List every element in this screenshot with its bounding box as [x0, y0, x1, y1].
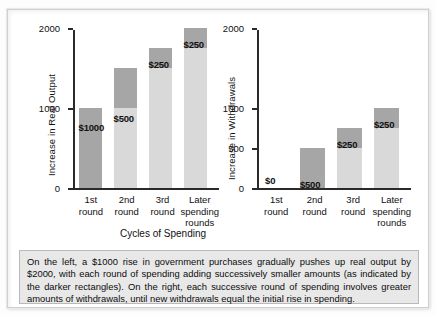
x-tick-left-4: Later spending rounds: [180, 194, 219, 229]
x-tick-left-2: 2nd round: [109, 194, 145, 229]
y-axis-title-right: Increase in Withdrawals: [226, 50, 237, 180]
page-frame: Increase in Real Output 0 1000 2000: [7, 9, 429, 308]
bar-right-3-value-label: $250: [337, 139, 357, 150]
bar-slot-right-2: $500: [294, 30, 331, 188]
bar-left-4-light-segment: [184, 48, 208, 188]
bar-right-1-value-label: $0: [265, 175, 276, 186]
bar-left-3-light-segment: [149, 68, 173, 188]
bar-right-3rd-round[interactable]: $250: [337, 128, 362, 188]
x-tick-right-4: Later spending rounds: [372, 194, 411, 229]
y-tick-label-right-1000: 1000: [223, 103, 244, 114]
x-tick-right-1: 1st round: [257, 194, 295, 229]
x-axis-line-left: [73, 188, 219, 190]
y-tick-left-0: 0: [68, 188, 73, 190]
y-tick-label-left-0: 0: [55, 183, 60, 194]
bar-slot-right-3: $250: [331, 30, 368, 188]
bar-right-3-dark-segment: $250: [337, 128, 362, 148]
bar-right-4-value-label: $250: [374, 119, 394, 130]
caption-text: On the left, a $1000 rise in government …: [27, 256, 411, 306]
bar-left-1-dark-segment: $1000: [79, 108, 103, 188]
bar-slot-left-2: $500: [108, 30, 143, 188]
bar-slot-right-4: $250: [368, 30, 405, 188]
bar-right-2-dark-segment: $500: [300, 148, 325, 188]
bar-right-later-rounds[interactable]: $250: [374, 108, 399, 188]
bar-right-2nd-round[interactable]: $500: [300, 148, 325, 188]
plot-area-left: 0 1000 2000 $1000: [73, 30, 213, 190]
bar-left-2-dark-segment: $500: [114, 68, 138, 108]
x-axis-title: Cycles of Spending: [68, 228, 258, 239]
x-tick-right-3: 3rd round: [334, 194, 372, 229]
bar-left-1st-round[interactable]: $1000: [79, 108, 103, 188]
bar-left-4-value-label: $250: [184, 39, 204, 50]
bar-slot-left-1: $1000: [73, 30, 108, 188]
y-tick-label-right-2000: 2000: [223, 23, 244, 34]
bar-left-2-value-label: $500: [114, 113, 134, 124]
caption-box: On the left, a $1000 rise in government …: [19, 250, 419, 304]
bars-left: $1000 $500: [73, 30, 213, 188]
x-tick-left-3: 3rd round: [145, 194, 181, 229]
chart-real-output: Increase in Real Output 0 1000 2000: [26, 10, 226, 242]
bar-left-4-dark-segment: $250: [184, 28, 208, 48]
y-tick-label-right-500: 500: [228, 143, 244, 154]
bar-right-3-light-segment: [337, 148, 362, 188]
bars-right: $0 $500: [257, 30, 405, 188]
bar-slot-right-1: $0: [257, 30, 294, 188]
y-tick-label-left-1000: 1000: [39, 103, 60, 114]
bar-left-2nd-round[interactable]: $500: [114, 68, 138, 188]
bar-left-3-dark-segment: $250: [149, 48, 173, 68]
y-tick-label-right-0: 0: [239, 183, 244, 194]
bar-left-3rd-round[interactable]: $250: [149, 48, 173, 188]
x-tick-left-1: 1st round: [73, 194, 109, 229]
figure-page: Increase in Real Output 0 1000 2000: [0, 0, 436, 316]
plot-area-right: 0 500 1000 2000 $0: [257, 30, 405, 190]
bar-right-2-value-label: $500: [300, 179, 320, 190]
x-tick-labels-left: 1st round 2nd round 3rd round Later spen…: [73, 194, 219, 229]
y-axis-title-left: Increase in Real Output: [46, 56, 57, 176]
bar-left-3-value-label: $250: [149, 59, 169, 70]
chart-withdrawals: Increase in Withdrawals 0 500 1000 2000: [216, 10, 421, 242]
bar-right-4-dark-segment: $250: [374, 108, 399, 128]
bar-right-4-light-segment: [374, 128, 399, 188]
y-tick-right-0: 0: [252, 188, 257, 190]
x-tick-right-2: 2nd round: [295, 194, 333, 229]
x-axis-line-right: [257, 188, 411, 190]
bar-slot-left-4: $250: [178, 30, 213, 188]
bar-left-later-rounds[interactable]: $250: [184, 28, 208, 188]
y-tick-label-left-2000: 2000: [39, 23, 60, 34]
x-tick-labels-right: 1st round 2nd round 3rd round Later spen…: [257, 194, 411, 229]
bar-slot-left-3: $250: [143, 30, 178, 188]
charts-container: Increase in Real Output 0 1000 2000: [8, 10, 430, 242]
bar-left-1-value-label: $1000: [79, 122, 104, 133]
